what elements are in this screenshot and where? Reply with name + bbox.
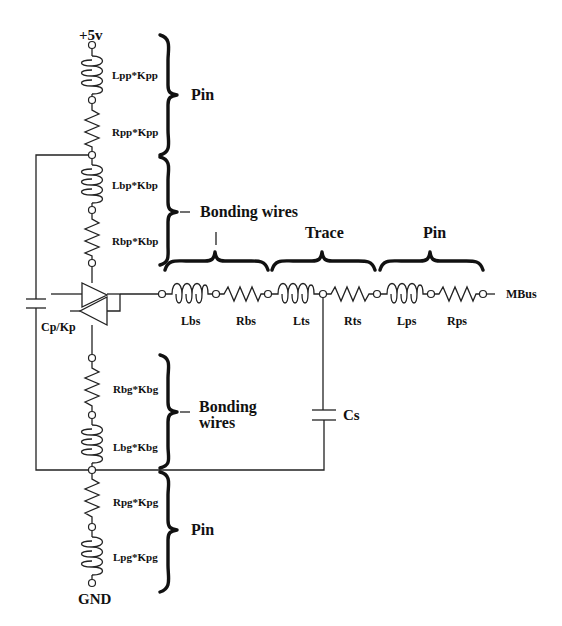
resistor-rps-icon [435, 287, 480, 301]
brace-trace-icon [272, 252, 375, 270]
inductor-lpg-icon [82, 531, 103, 580]
label-lpg: Lpg*Kpg [113, 551, 158, 563]
brace-upper-bonding-icon [160, 157, 177, 265]
label-signal-pin: Pin [423, 224, 446, 241]
label-lbs: Lbs [181, 314, 201, 328]
node-ground-bus [89, 467, 96, 474]
resistor-rbg-icon [85, 362, 99, 412]
node [89, 152, 96, 159]
node [89, 207, 96, 214]
resistor-rpp-icon [85, 104, 99, 152]
node-gnd [89, 580, 96, 587]
resistor-rts-icon [327, 287, 374, 301]
node-mbus [480, 291, 487, 298]
node [89, 97, 96, 104]
label-rps: Rps [447, 314, 467, 328]
inductor-lps-icon [381, 284, 428, 304]
label-vcc: +5v [79, 27, 103, 43]
node [89, 412, 96, 419]
node [265, 291, 272, 298]
signal-path [159, 284, 496, 304]
label-lbp: Lbp*Kbp [112, 179, 158, 191]
buffer-driver-icon [51, 283, 159, 355]
label-upper-pin: Pin [191, 86, 214, 103]
node [159, 291, 166, 298]
brace-icons [160, 35, 177, 592]
label-trace: Trace [305, 224, 344, 241]
resistor-rbp-icon [85, 214, 99, 260]
label-mbus: MBus [506, 287, 537, 301]
inductor-lpp-icon [82, 49, 103, 97]
circuit-diagram: Cp/Kp [0, 0, 562, 626]
brace-bonding-signal-icon [165, 252, 268, 270]
label-lbg: Lbg*Kbg [113, 441, 158, 453]
node [428, 291, 435, 298]
label-gnd: GND [78, 591, 112, 607]
node [374, 291, 381, 298]
inductor-lbg-icon [82, 419, 103, 467]
label-rbg: Rbg*Kbg [113, 383, 159, 395]
label-cs: Cs [343, 407, 360, 423]
node [89, 355, 96, 362]
capacitor-cp-icon [26, 155, 89, 470]
label-lower-pin: Pin [191, 521, 214, 538]
node [89, 260, 96, 267]
inductor-lbs-icon [166, 284, 213, 304]
label-lower-bonding-2: wires [199, 414, 235, 431]
node [89, 524, 96, 531]
label-rpg: Rpg*Kpg [113, 496, 159, 508]
label-rbs: Rbs [236, 314, 256, 328]
power-path [82, 42, 103, 284]
signal-brace-icons [165, 252, 483, 270]
label-lpp: Lpp*Kpp [112, 69, 158, 81]
label-lts: Lts [293, 314, 310, 328]
capacitor-cs-icon [312, 298, 336, 421]
brace-pin-signal-icon [380, 252, 483, 270]
label-rpp: Rpp*Kpp [112, 126, 158, 138]
label-upper-bonding: Bonding wires [200, 203, 298, 221]
brace-lower-pin-icon [160, 472, 177, 592]
resistor-rpg-icon [85, 474, 99, 524]
label-rts: Rts [344, 314, 362, 328]
resistor-rbs-icon [220, 287, 265, 301]
label-rbp: Rbp*Kbp [112, 235, 158, 247]
node-trace-tap [320, 291, 327, 298]
label-cp-kp: Cp/Kp [41, 320, 76, 334]
label-lps: Lps [397, 314, 417, 328]
brace-upper-pin-icon [160, 35, 177, 155]
brace-lower-bonding-icon [160, 355, 177, 468]
node [213, 291, 220, 298]
inductor-lts-icon [272, 284, 320, 304]
inductor-lbp-icon [82, 159, 103, 207]
